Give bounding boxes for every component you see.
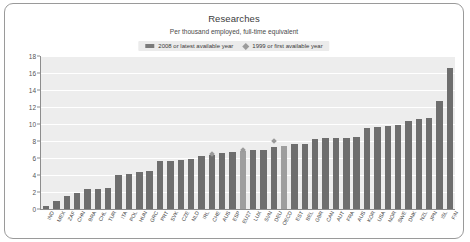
bar[interactable]	[416, 119, 422, 209]
bar[interactable]	[281, 146, 287, 209]
y-axis-tick-label: 10	[29, 121, 36, 128]
x-axis-tick-label: FRA	[345, 210, 355, 222]
bar[interactable]	[426, 118, 432, 209]
x-axis-tick-label: GBR	[314, 210, 325, 223]
legend-label-2008: 2008 or latest available year	[158, 43, 233, 49]
x-axis-tick-label: EU27	[241, 210, 253, 225]
legend-bar-swatch-icon	[145, 44, 154, 48]
bar[interactable]	[385, 126, 391, 209]
y-axis-tick-label: 8	[32, 138, 36, 145]
bar[interactable]	[105, 188, 111, 209]
x-axis-tick-label: EST	[294, 210, 304, 222]
bar-series	[41, 56, 455, 209]
plot-area	[41, 56, 455, 209]
bar[interactable]	[74, 193, 80, 209]
y-axis-tick-label: 2	[32, 189, 36, 196]
bar[interactable]	[146, 171, 152, 209]
y-axis-tick-label: 16	[29, 70, 36, 77]
bar[interactable]	[53, 201, 59, 210]
x-axis-tick-label: SVK	[169, 210, 179, 222]
x-axis-tick-label: DNK	[407, 210, 418, 223]
x-axis-tick-label: SWE	[396, 210, 407, 223]
bar[interactable]	[115, 175, 121, 209]
bar[interactable]	[178, 160, 184, 209]
chart-legend: 2008 or latest available year 1999 or fi…	[138, 41, 329, 51]
bar[interactable]	[198, 156, 204, 209]
bar[interactable]	[436, 101, 442, 209]
bar[interactable]	[343, 138, 349, 209]
bar[interactable]	[240, 151, 246, 209]
bar[interactable]	[84, 189, 90, 209]
bar[interactable]	[157, 161, 163, 209]
x-axis-tick-label: USA	[376, 210, 386, 222]
bar[interactable]	[64, 196, 70, 209]
x-axis-tick-label: ITA	[119, 210, 128, 220]
legend-label-1999: 1999 or first available year	[252, 43, 322, 49]
x-axis-tick-label: CHN	[76, 210, 87, 223]
bar[interactable]	[447, 68, 453, 209]
x-axis-tick-label: HUN	[138, 210, 149, 223]
legend-item-1999[interactable]: 1999 or first available year	[243, 43, 322, 49]
y-axis-line	[40, 56, 41, 210]
bar[interactable]	[395, 125, 401, 209]
x-axis-tick-label: LUX	[252, 210, 262, 222]
x-axis-tick-label: SVN	[262, 210, 272, 222]
bar[interactable]	[312, 139, 318, 209]
bar[interactable]	[219, 153, 225, 209]
y-axis-tick-label: 12	[29, 104, 36, 111]
x-axis-tick-label: IRL	[202, 210, 211, 220]
x-axis-tick-label: JPN	[428, 210, 438, 222]
bar[interactable]	[405, 121, 411, 209]
y-axis-tick-label: 4	[32, 172, 36, 179]
bar[interactable]	[209, 155, 215, 209]
bar[interactable]	[333, 138, 339, 209]
x-axis-tick-label: AUS	[221, 210, 231, 222]
x-axis-tick-label: PRT	[159, 210, 169, 222]
y-axis-tick-label: 18	[29, 53, 36, 60]
bar[interactable]	[250, 150, 256, 209]
x-axis-tick-label: KOR	[366, 210, 377, 223]
x-axis-tick-label: CHE	[211, 210, 222, 223]
bar[interactable]	[260, 150, 266, 210]
x-axis-tick-label: BRA	[86, 210, 96, 222]
bar[interactable]	[322, 138, 328, 209]
chart-subtitle: Per thousand employed, full-time equival…	[5, 28, 463, 35]
y-axis: 024681012141618	[5, 56, 41, 209]
legend-diamond-swatch-icon	[242, 42, 249, 49]
x-axis-tick-label: IND	[46, 210, 56, 221]
bar[interactable]	[364, 128, 370, 209]
bar[interactable]	[188, 159, 194, 209]
x-axis-tick-label: CHL	[97, 210, 107, 222]
legend-item-2008[interactable]: 2008 or latest available year	[145, 43, 233, 49]
y-axis-tick-label: 6	[32, 155, 36, 162]
x-axis-tick-label: FIN	[450, 210, 459, 220]
bar[interactable]	[126, 174, 132, 209]
x-axis-labels: INDMEXZAFCHNBRACHLTURITAPOLHUNGRCPRTSVKC…	[41, 210, 455, 239]
bar[interactable]	[374, 127, 380, 209]
bar[interactable]	[302, 144, 308, 209]
x-axis-tick-label: AUS	[356, 210, 366, 222]
bar[interactable]	[167, 161, 173, 209]
x-axis-tick-label: GRC	[148, 210, 159, 223]
x-axis-tick-label: NOR	[386, 210, 397, 223]
x-axis-tick-label: NZL	[418, 210, 428, 222]
diamond-marker[interactable]	[271, 138, 277, 144]
bar[interactable]	[291, 144, 297, 209]
bar[interactable]	[271, 147, 277, 209]
x-axis-tick-label: CZE	[180, 210, 190, 222]
x-axis-tick-label: POL	[128, 210, 138, 222]
chart-card: Researches Per thousand employed, full-t…	[4, 3, 464, 239]
bar[interactable]	[353, 137, 359, 209]
y-axis-tick-label: 0	[32, 206, 36, 213]
x-axis-tick-label: TUR	[107, 210, 117, 222]
bar[interactable]	[136, 172, 142, 209]
bar[interactable]	[95, 189, 101, 209]
x-axis-tick-label: AUT	[335, 210, 345, 222]
y-axis-tick-label: 14	[29, 87, 36, 94]
chart-title: Researches	[5, 13, 463, 24]
bar[interactable]	[229, 152, 235, 209]
x-axis-tick-label: NLD	[190, 210, 200, 222]
x-axis-tick-label: ISL	[440, 210, 449, 220]
x-axis-tick-label: CAN	[324, 210, 335, 223]
x-axis-tick-label: MEX	[55, 210, 66, 223]
